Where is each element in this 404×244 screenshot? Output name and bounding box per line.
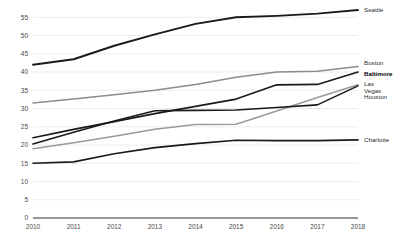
y-tick-label: 20 [21,141,29,148]
legend-label-boston: Boston [364,59,384,66]
x-tick-label: 2016 [270,223,285,230]
y-tick-label: 10 [21,178,29,185]
x-tick-label: 2017 [310,223,325,230]
x-tick-label: 2015 [229,223,244,230]
y-tick-label: 15 [21,160,29,167]
x-tick-label: 2014 [188,223,203,230]
y-tick-label: 5 [24,196,28,203]
x-tick-label: 2010 [26,223,41,230]
y-tick-label: 0 [24,214,28,221]
legend-label-baltimore: Baltimore [364,70,393,77]
legend-label-seattle: Seattle [364,6,384,13]
data-series-group [33,10,358,163]
y-tick-label: 25 [21,123,29,130]
y-tick-label: 45 [21,50,29,57]
y-tick-label: 55 [21,14,29,21]
y-axis-tick-labels: 0510152025303540455055 [21,14,29,222]
x-axis-tick-labels: 201020112012201320142015201620172018 [26,223,366,230]
y-tick-label: 35 [21,87,29,94]
series-line-seattle [33,10,358,65]
series-line-charlotte [33,140,358,163]
legend-label-houston: Houston [364,93,388,100]
gridlines [33,17,358,218]
line-chart: 0510152025303540455055 20102011201220132… [0,0,404,244]
x-tick-label: 2013 [148,223,163,230]
y-tick-label: 30 [21,105,29,112]
series-line-houston [33,86,358,144]
x-tick-label: 2012 [107,223,122,230]
chart-legend: SeattleBostonBaltimoreLasVegasHoustonCha… [364,6,393,143]
y-tick-label: 40 [21,68,29,75]
y-tick-label: 50 [21,32,29,39]
chart-canvas: 0510152025303540455055 20102011201220132… [0,0,404,244]
series-line-las-vegas [33,85,358,149]
x-tick-label: 2018 [351,223,366,230]
x-tick-label: 2011 [67,223,81,230]
legend-label-charlotte: Charlotte [364,136,390,143]
